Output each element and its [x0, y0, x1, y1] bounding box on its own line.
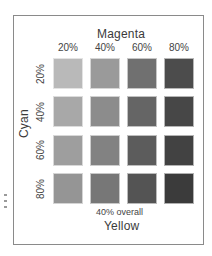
row-label-80: 80% — [35, 174, 46, 204]
row-label-20: 20% — [35, 59, 46, 89]
row-label-60: 60% — [35, 135, 46, 165]
edge-mark — [4, 200, 7, 202]
swatch-c20-m80 — [164, 58, 194, 89]
swatch-c20-m20 — [53, 58, 83, 89]
column-label-60: 60% — [127, 42, 157, 53]
column-label-20: 20% — [53, 42, 83, 53]
cyan-axis-title: Cyan — [17, 109, 31, 138]
cropped-edge-marks — [4, 194, 7, 212]
swatch-c40-m80 — [164, 96, 194, 127]
column-label-40: 40% — [90, 42, 120, 53]
swatch-c40-m20 — [53, 96, 83, 127]
swatch-c60-m40 — [90, 135, 120, 166]
yellow-overall-note: 40% overall — [96, 207, 143, 217]
swatch-c80-m60 — [127, 173, 157, 204]
edge-mark — [4, 206, 7, 208]
swatch-c20-m60 — [127, 58, 157, 89]
swatch-c60-m20 — [53, 135, 83, 166]
swatch-c80-m40 — [90, 173, 120, 204]
yellow-axis-title: Yellow — [104, 219, 139, 233]
magenta-axis-title: Magenta — [97, 27, 145, 41]
swatch-c60-m80 — [164, 135, 194, 166]
column-label-80: 80% — [164, 42, 194, 53]
row-label-40: 40% — [35, 97, 46, 127]
edge-mark — [4, 194, 7, 196]
swatch-c60-m60 — [127, 135, 157, 166]
swatch-c80-m20 — [53, 173, 83, 204]
swatch-c40-m40 — [90, 96, 120, 127]
swatch-c40-m60 — [127, 96, 157, 127]
swatch-c20-m40 — [90, 58, 120, 89]
swatch-c80-m80 — [164, 173, 194, 204]
